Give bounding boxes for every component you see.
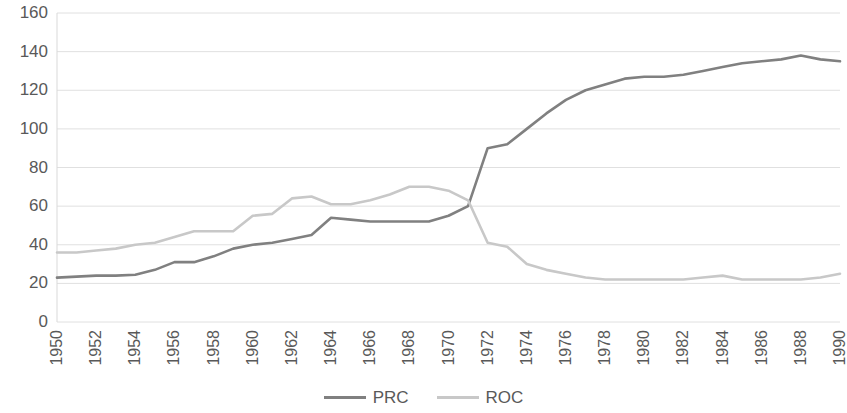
x-tick-label: 1990 (832, 330, 847, 366)
y-tick-label: 80 (2, 159, 48, 176)
x-tick-label: 1956 (166, 330, 182, 366)
x-tick-label: 1952 (88, 330, 104, 366)
legend-label: PRC (373, 389, 409, 406)
x-tick-label: 1982 (675, 330, 691, 366)
y-tick-label: 0 (2, 313, 48, 330)
x-tick-label: 1958 (206, 330, 222, 366)
x-tick-label: 1966 (362, 330, 378, 366)
y-tick-label: 140 (2, 43, 48, 60)
x-tick-label: 1970 (441, 330, 457, 366)
y-tick-label: 60 (2, 197, 48, 214)
legend-line-swatch (324, 396, 366, 399)
x-tick-label: 1960 (245, 330, 261, 366)
legend-item-roc[interactable]: ROC (437, 389, 524, 406)
x-tick-label: 1972 (480, 330, 496, 366)
y-tick-label: 100 (2, 120, 48, 137)
x-tick-label: 1968 (401, 330, 417, 366)
x-tick-label: 1954 (127, 330, 143, 366)
y-tick-label: 40 (2, 236, 48, 253)
x-tick-label: 1964 (323, 330, 339, 366)
legend-line-swatch (437, 396, 479, 399)
x-tick-label: 1986 (754, 330, 770, 366)
y-tick-label: 20 (2, 274, 48, 291)
legend-label: ROC (486, 389, 524, 406)
y-tick-label: 160 (2, 4, 48, 21)
x-tick-label: 1950 (49, 330, 65, 366)
y-tick-label: 120 (2, 81, 48, 98)
x-tick-label: 1980 (636, 330, 652, 366)
series-line-roc (57, 187, 840, 280)
x-tick-label: 1978 (597, 330, 613, 366)
legend-item-prc[interactable]: PRC (324, 389, 409, 406)
x-tick-label: 1976 (558, 330, 574, 366)
x-tick-label: 1984 (715, 330, 731, 366)
x-tick-label: 1962 (284, 330, 300, 366)
x-tick-label: 1988 (793, 330, 809, 366)
line-chart: 160140120100806040200 195019521954195619… (0, 0, 847, 413)
x-tick-label: 1974 (519, 330, 535, 366)
chart-legend: PRCROC (0, 389, 847, 406)
